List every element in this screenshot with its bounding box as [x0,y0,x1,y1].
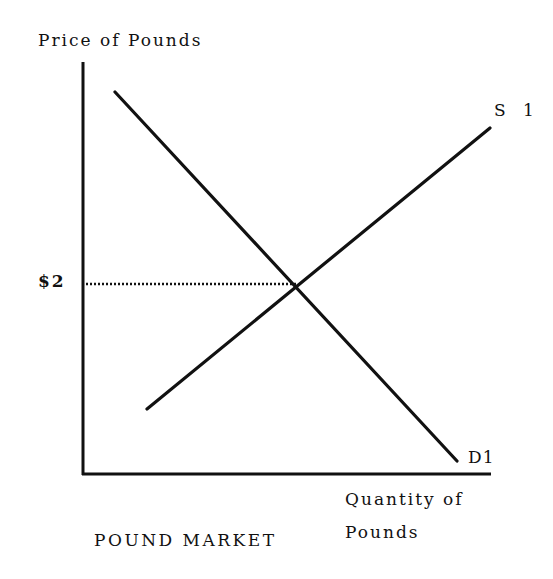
demand-curve-d1 [115,92,457,461]
demand-label: D1 [468,447,494,467]
x-axis-label-line2: Pounds [345,522,420,542]
diagram-title: POUND MARKET [94,530,277,550]
supply-curve-s1 [147,128,490,409]
supply-demand-diagram [0,0,553,579]
y-axis-label: Price of Pounds [38,30,202,50]
x-axis-label-line1: Quantity of [345,489,464,509]
supply-label: S 1 [494,100,540,120]
price-tick-label: $2 [38,271,66,291]
